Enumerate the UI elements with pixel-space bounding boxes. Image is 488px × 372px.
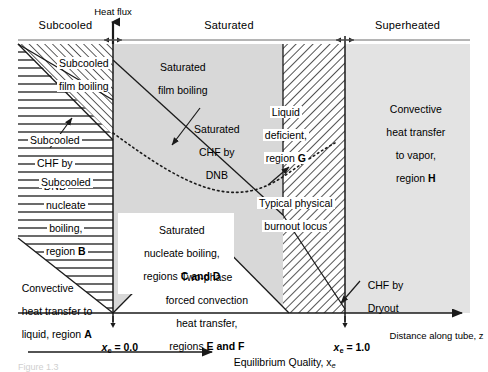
header-subcooled: Subcooled	[18, 20, 113, 32]
boiling-regimes-diagram: Subcooled Saturated Superheated Heat flu…	[0, 0, 488, 372]
label-line-region: region B	[44, 245, 88, 257]
figure-caption: Figure 1.3	[18, 362, 59, 372]
label-line-region: liquid, region A	[22, 328, 92, 340]
tick-subscript: e	[107, 346, 111, 355]
tick-label-xe-zero: xe = 0.0	[83, 330, 145, 368]
label-line: Typical physical	[257, 197, 335, 209]
label-line: Subcooled	[57, 57, 111, 69]
label-line: forced convection	[166, 294, 248, 306]
label-saturated-film-boiling: Saturated film boiling	[135, 50, 219, 108]
header-saturated: Saturated	[113, 20, 345, 32]
label-line: Liquid	[270, 106, 302, 118]
label-typical-physical-burnout-locus: Typical physical burnout locus	[238, 186, 342, 244]
axis-label-subscript: e	[332, 361, 336, 370]
label-line: heat transfer	[386, 126, 445, 138]
label-line: nucleate boiling,	[144, 247, 220, 259]
label-line-region: region G	[264, 152, 308, 164]
label-line: heat transfer to	[22, 305, 93, 317]
label-line: nucleate	[44, 199, 88, 211]
label-line: film boiling	[57, 80, 111, 92]
label-line: film boiling	[158, 84, 208, 96]
label-line: Dryout	[368, 302, 399, 314]
label-line: Two-phase	[181, 271, 232, 283]
label-line: Subcooled	[28, 134, 82, 146]
label-line: Convective	[22, 282, 74, 294]
label-line: heat transfer,	[176, 317, 237, 329]
label-line: Subcooled	[39, 176, 93, 188]
region-letter: G	[298, 152, 306, 164]
label-line: Saturated	[159, 224, 205, 236]
label-subcooled-film-boiling: Subcooled film boiling	[40, 46, 116, 104]
heat-flux-axis-label: Heat flux	[83, 6, 143, 18]
axis-label-text: Distance along tube, z	[390, 330, 484, 341]
region-letter: B	[78, 245, 86, 257]
label-line: Convective	[390, 103, 442, 115]
region-letter: H	[428, 172, 436, 184]
label-line: deficient,	[263, 129, 309, 141]
label-chf-by-dryout: CHF by Dryout	[356, 268, 426, 326]
label-saturated-chf-by-dnb: Saturated CHF by DNB	[178, 112, 244, 193]
label-line: burnout locus	[262, 220, 329, 232]
label-liquid-deficient: Liquid deficient, region G	[245, 95, 315, 176]
label-line: boiling,	[47, 222, 84, 234]
axis-label-text: Equilibrium Quality, x	[234, 356, 332, 368]
tick-value: = 0.0	[114, 341, 138, 353]
label-subcooled-nucleate-boiling: Subcooled nucleate boiling, region B	[16, 165, 104, 269]
axis-label-distance-along-tube: Distance along tube, z	[379, 318, 488, 353]
label-line: Saturated	[194, 123, 240, 135]
label-line: CHF by	[368, 279, 404, 291]
label-line: DNB	[206, 169, 228, 181]
axis-label-equilibrium-quality: Equilibrium Quality, xe	[222, 345, 382, 372]
xe-one-tick-arrow	[342, 323, 347, 328]
label-line: Saturated	[160, 61, 206, 73]
label-convective-vapor: Convective heat transfer to vapor, regio…	[368, 92, 452, 196]
header-superheated: Superheated	[345, 20, 470, 32]
label-line: CHF by	[199, 146, 235, 158]
label-line-region: region H	[396, 172, 436, 184]
label-line: to vapor,	[396, 149, 436, 161]
